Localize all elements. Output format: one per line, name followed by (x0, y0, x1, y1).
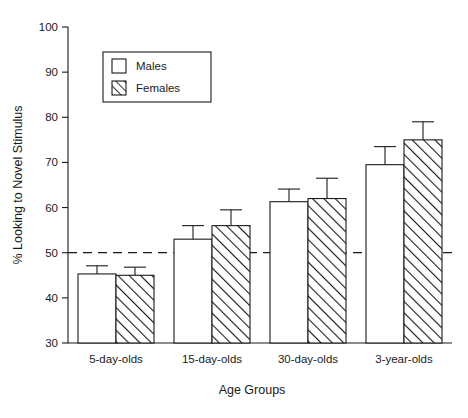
figure-container: 30405060708090100 5-day-olds15-day-olds3… (0, 0, 468, 418)
legend-label-males: Males (136, 60, 167, 72)
bar (308, 199, 346, 343)
bar (404, 140, 442, 343)
y-tick-labels: 30405060708090100 (39, 21, 58, 349)
y-tick-label: 50 (45, 247, 58, 259)
y-tick-label: 90 (45, 66, 58, 78)
bar (116, 275, 154, 343)
bar (270, 202, 308, 343)
x-axis-title: Age Groups (219, 383, 286, 397)
y-tick-label: 80 (45, 111, 58, 123)
bar (78, 274, 116, 343)
chart-legend: Males Females (103, 52, 211, 102)
y-tick-label: 100 (39, 21, 58, 33)
y-axis-title: % Looking to Novel Stimulus (11, 105, 25, 264)
hatched-square-swatch (112, 81, 126, 95)
x-category-label: 30-day-olds (278, 353, 338, 365)
y-tick-label: 40 (45, 292, 58, 304)
empty-square-swatch (112, 59, 126, 73)
bar (366, 165, 404, 343)
bars-layer (78, 122, 442, 343)
x-category-label: 15-day-olds (182, 353, 242, 365)
x-category-label: 5-day-olds (89, 353, 143, 365)
legend-label-females: Females (136, 82, 180, 94)
x-category-label: 3-year-olds (375, 353, 433, 365)
bar (212, 226, 250, 343)
bar (174, 239, 212, 343)
x-category-labels: 5-day-olds15-day-olds30-day-olds3-year-o… (89, 353, 433, 365)
y-tick-label: 60 (45, 202, 58, 214)
y-tick-label: 70 (45, 156, 58, 168)
bar-chart: 30405060708090100 5-day-olds15-day-olds3… (0, 0, 468, 418)
y-tick-label: 30 (45, 337, 58, 349)
